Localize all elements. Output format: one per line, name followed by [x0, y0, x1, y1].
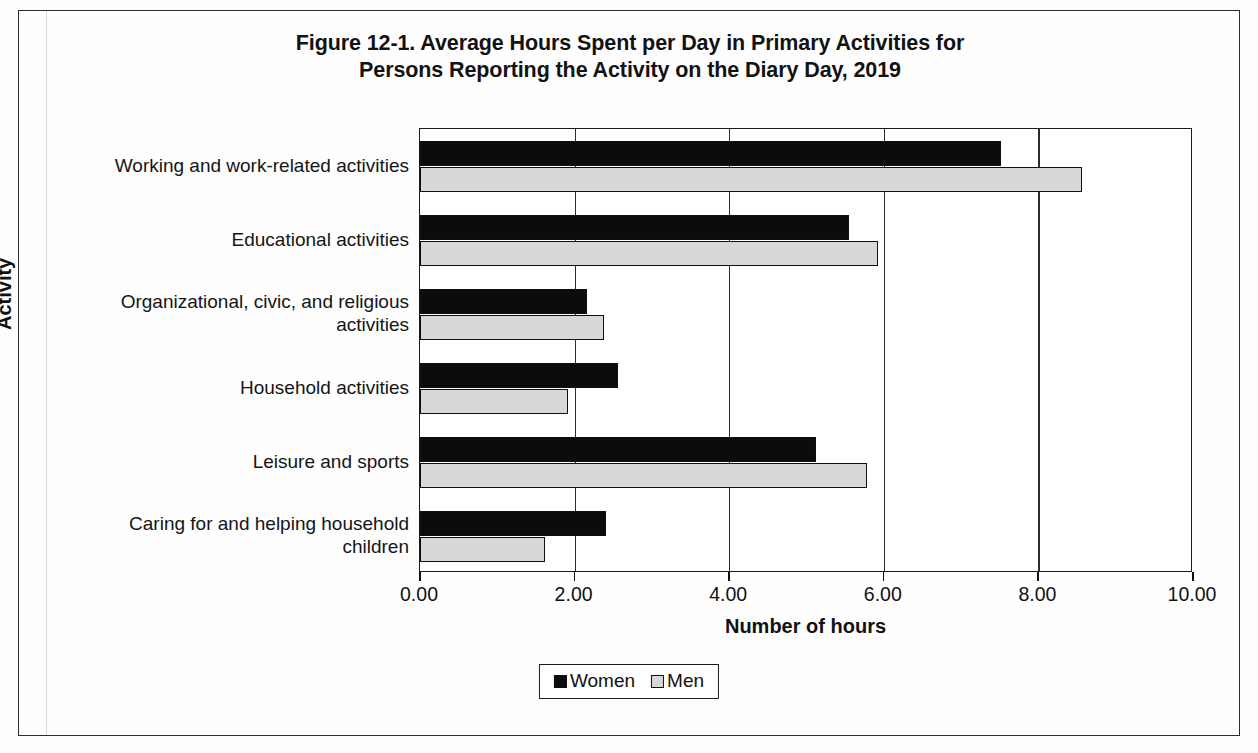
- bar-group: [420, 425, 1191, 499]
- page-title: Figure 12-1. Average Hours Spent per Day…: [130, 30, 1130, 84]
- category-label-line: Working and work-related activities: [19, 154, 409, 177]
- bar-group: [420, 277, 1191, 351]
- legend-swatch-men: [651, 675, 664, 688]
- legend-item-women[interactable]: Women: [554, 670, 635, 692]
- bar-men[interactable]: [420, 389, 568, 414]
- category-label: Working and work-related activities: [19, 154, 409, 177]
- title-line-2: Persons Reporting the Activity on the Di…: [130, 57, 1130, 84]
- category-label-line: Household activities: [19, 376, 409, 399]
- category-label: Household activities: [19, 376, 409, 399]
- bar-women[interactable]: [420, 511, 606, 536]
- bar-women[interactable]: [420, 437, 816, 462]
- x-tick-mark: [883, 572, 885, 581]
- x-tick-label: 6.00: [864, 583, 902, 606]
- page-background: Figure 12-1. Average Hours Spent per Day…: [0, 0, 1258, 753]
- x-tick-label: 4.00: [709, 583, 747, 606]
- x-axis-title: Number of hours: [419, 615, 1192, 638]
- legend-swatch-women: [554, 675, 567, 688]
- bar-men[interactable]: [420, 463, 867, 488]
- x-tick-label: 10.00: [1168, 583, 1217, 606]
- category-label: Educational activities: [19, 228, 409, 251]
- bar-women[interactable]: [420, 141, 1001, 166]
- category-label-line: Leisure and sports: [19, 450, 409, 473]
- legend-item-men[interactable]: Men: [651, 670, 704, 692]
- legend-item-label: Women: [570, 670, 635, 692]
- x-tick-mark: [574, 572, 576, 581]
- x-tick-mark: [728, 572, 730, 581]
- category-label: Leisure and sports: [19, 450, 409, 473]
- x-tick-label: 2.00: [555, 583, 593, 606]
- category-label-list: Working and work-related activitiesEduca…: [10, 128, 409, 572]
- title-line-1: Figure 12-1. Average Hours Spent per Day…: [130, 30, 1130, 57]
- bar-group: [420, 351, 1191, 425]
- bar-women[interactable]: [420, 289, 587, 314]
- category-label-line: Organizational, civic, and religious: [19, 290, 409, 313]
- bar-group: [420, 129, 1191, 203]
- bar-men[interactable]: [420, 537, 545, 562]
- category-label-line: Educational activities: [19, 228, 409, 251]
- plot-area: [419, 128, 1192, 572]
- bar-group: [420, 203, 1191, 277]
- category-label: Organizational, civic, and religiousacti…: [19, 290, 409, 336]
- bar-men[interactable]: [420, 167, 1082, 192]
- bar-men[interactable]: [420, 241, 878, 266]
- category-label-line: activities: [19, 313, 409, 336]
- x-tick-mark: [1037, 572, 1039, 581]
- bar-men[interactable]: [420, 315, 604, 340]
- category-label-line: children: [19, 535, 409, 558]
- x-tick-label: 0.00: [400, 583, 438, 606]
- x-tick-mark: [1192, 572, 1194, 581]
- legend-item-label: Men: [667, 670, 704, 692]
- category-label-line: Caring for and helping household: [19, 512, 409, 535]
- category-label: Caring for and helping householdchildren: [19, 512, 409, 558]
- chart-legend: WomenMen: [539, 664, 719, 699]
- x-tick-label: 8.00: [1018, 583, 1056, 606]
- x-axis-ticks: 0.002.004.006.008.0010.00: [419, 572, 1192, 612]
- x-tick-mark: [419, 572, 421, 581]
- bar-women[interactable]: [420, 215, 849, 240]
- bar-group: [420, 499, 1191, 573]
- bar-women[interactable]: [420, 363, 618, 388]
